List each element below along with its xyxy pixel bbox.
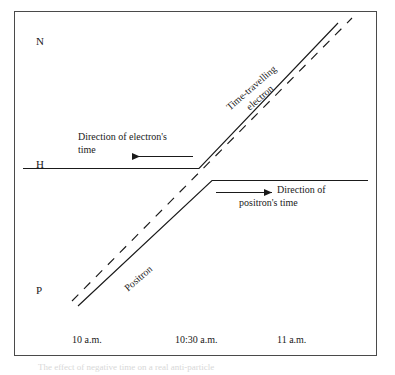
- figure-caption: The effect of negative time on a real an…: [38, 362, 214, 372]
- positron-direction-line1: Direction of: [277, 184, 326, 195]
- axis-label-n: N: [36, 36, 44, 47]
- electron-direction-annotation: Direction of electron's time: [78, 131, 167, 156]
- time-tick-label: 11 a.m.: [277, 334, 306, 345]
- figure-root: N H P 10 a.m. 10:30 a.m. 11 a.m. Directi…: [0, 0, 395, 375]
- electron-direction-line2: time: [78, 144, 96, 155]
- electron-direction-line1: Direction of electron's: [78, 131, 167, 142]
- positron-direction-line2: positron's time: [239, 197, 326, 210]
- positron-direction-annotation: Direction of positron's time: [277, 184, 326, 209]
- axis-label-h: H: [36, 159, 44, 170]
- time-tick-label: 10 a.m.: [72, 334, 102, 345]
- time-tick-label: 10:30 a.m.: [175, 334, 218, 345]
- axis-label-p: P: [36, 285, 42, 296]
